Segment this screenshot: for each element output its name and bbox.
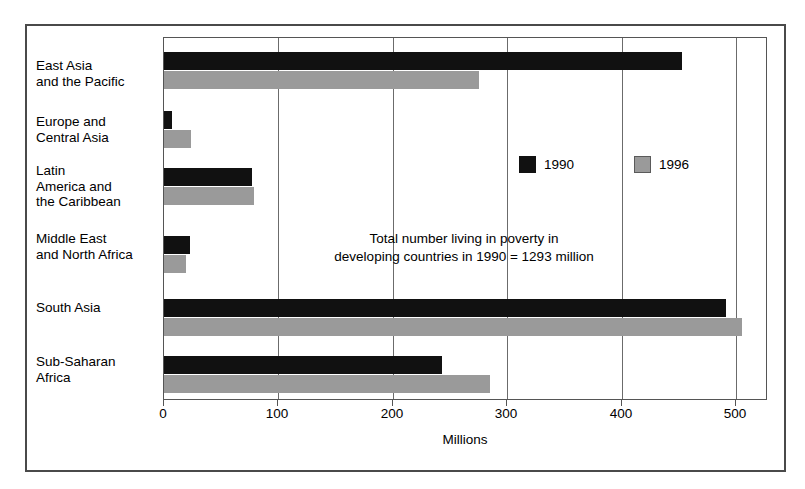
xtick-label-400: 400 bbox=[591, 406, 651, 421]
bar-east-asia-1996 bbox=[164, 71, 479, 89]
plot-area: 1990 1996 Total number living in poverty… bbox=[163, 37, 767, 400]
xtick-label-300: 300 bbox=[476, 406, 536, 421]
bar-europe-central-asia-1990 bbox=[164, 111, 172, 129]
gridline-100 bbox=[278, 38, 279, 399]
xtick-label-0: 0 bbox=[133, 406, 193, 421]
category-label-middle-east: Middle East and North Africa bbox=[36, 231, 160, 262]
bar-latin-america-1996 bbox=[164, 187, 254, 205]
x-axis-title: Millions bbox=[163, 432, 767, 447]
bar-group-east-asia bbox=[164, 52, 766, 90]
legend-label-1990: 1990 bbox=[544, 156, 574, 173]
gridline-400 bbox=[622, 38, 623, 399]
poverty-bar-chart-figure: East Asia and the Pacific Europe and Cen… bbox=[0, 0, 805, 489]
xtick-label-500: 500 bbox=[705, 406, 765, 421]
annotation-line-2: developing countries in 1990 = 1293 mill… bbox=[244, 248, 684, 266]
gridline-300 bbox=[507, 38, 508, 399]
gray-swatch-icon bbox=[634, 156, 651, 173]
category-label-sub-saharan-africa: Sub-Saharan Africa bbox=[36, 354, 160, 385]
bar-middle-east-1996 bbox=[164, 255, 186, 273]
bar-group-sub-saharan-africa bbox=[164, 356, 766, 394]
bar-middle-east-1990 bbox=[164, 236, 190, 254]
bar-group-europe-central-asia bbox=[164, 111, 766, 149]
xtick-label-200: 200 bbox=[362, 406, 422, 421]
bar-sub-saharan-africa-1990 bbox=[164, 356, 442, 374]
category-label-europe-central-asia: Europe and Central Asia bbox=[36, 114, 160, 145]
chart-annotation: Total number living in poverty in develo… bbox=[244, 230, 684, 266]
category-label-latin-america: Latin America and the Caribbean bbox=[36, 163, 160, 210]
bar-group-south-asia bbox=[164, 299, 766, 337]
annotation-line-1: Total number living in poverty in bbox=[244, 230, 684, 248]
gridline-200 bbox=[393, 38, 394, 399]
bar-east-asia-1990 bbox=[164, 52, 682, 70]
black-swatch-icon bbox=[519, 156, 536, 173]
bar-europe-central-asia-1996 bbox=[164, 130, 191, 148]
bar-south-asia-1990 bbox=[164, 299, 726, 317]
legend-item-1996: 1996 bbox=[634, 156, 689, 173]
legend-label-1996: 1996 bbox=[659, 156, 689, 173]
gridline-500 bbox=[736, 38, 737, 399]
category-label-south-asia: South Asia bbox=[36, 300, 160, 316]
bar-sub-saharan-africa-1996 bbox=[164, 375, 490, 393]
chart-legend: 1990 1996 bbox=[164, 156, 768, 178]
category-label-east-asia: East Asia and the Pacific bbox=[36, 58, 160, 89]
legend-item-1990: 1990 bbox=[519, 156, 574, 173]
xtick-label-100: 100 bbox=[247, 406, 307, 421]
bar-south-asia-1996 bbox=[164, 318, 742, 336]
